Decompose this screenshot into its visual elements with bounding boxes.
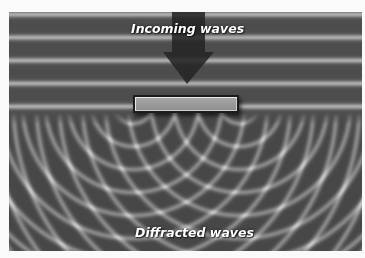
incoming-waves-label: Incoming waves: [131, 21, 244, 36]
down-arrow-icon: [9, 12, 362, 251]
barrier: [133, 95, 239, 113]
diffracted-waves-label: Diffracted waves: [135, 225, 254, 240]
diffraction-figure: Incoming waves Diffracted waves: [9, 12, 362, 251]
